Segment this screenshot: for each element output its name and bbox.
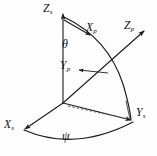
meridian-arc [64, 17, 131, 119]
axis-label-xs-symbol: X [4, 118, 11, 130]
axis-label-zs-symbol: Z [43, 2, 49, 14]
coordinate-diagram: Zs Xp Zp Yp Ys Xs θ ψ [0, 0, 157, 156]
axis-label-yp-subscript: p [67, 65, 71, 73]
axis-label-zs: Zs [43, 3, 52, 16]
axis-line-zp [63, 31, 144, 103]
axis-label-xp-subscript: p [93, 27, 97, 35]
axis-label-xs: Xs [4, 119, 14, 132]
axis-label-xs-subscript: s [11, 124, 14, 132]
axis-label-xp-symbol: X [86, 21, 93, 33]
axis-line-xs [25, 103, 63, 129]
axis-label-zp: Zp [124, 20, 134, 33]
axis-label-yp-symbol: Y [60, 59, 66, 71]
axis-label-ys-symbol: Y [136, 106, 142, 118]
angle-label-psi: ψ [62, 130, 69, 142]
axis-label-zs-subscript: s [50, 8, 53, 16]
leader-line-yp [79, 70, 108, 73]
axis-label-xp: Xp [86, 22, 97, 35]
angle-label-theta: θ [62, 38, 68, 50]
axis-label-zp-symbol: Z [124, 19, 130, 31]
axis-label-ys: Ys [136, 107, 145, 120]
axis-label-yp: Yp [60, 60, 70, 73]
axis-label-zp-subscript: p [131, 25, 135, 33]
axis-label-ys-subscript: s [143, 112, 146, 120]
azimuth-base-arc [24, 122, 133, 139]
